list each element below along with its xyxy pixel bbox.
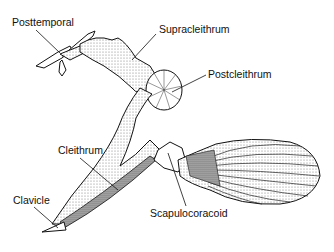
label-cleithrum: Cleithrum — [58, 145, 103, 156]
label-clavicle: Clavicle — [13, 195, 50, 206]
label-scapulocoracoid: Scapulocoracoid — [150, 208, 228, 219]
label-posttemporal: Posttemporal — [12, 17, 74, 28]
cleithrum-bone — [52, 88, 160, 224]
label-postcleithrum: Postcleithrum — [208, 69, 272, 80]
pectoral-fin — [178, 139, 320, 204]
label-supracleithrum: Supracleithrum — [159, 24, 230, 35]
